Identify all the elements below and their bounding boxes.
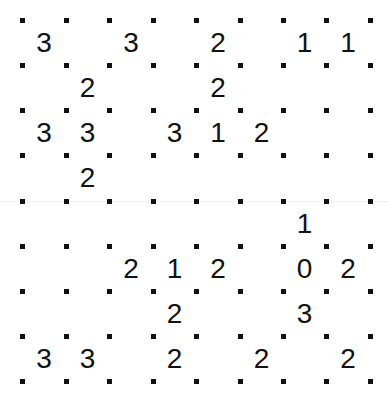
grid-cell[interactable]: 1 bbox=[283, 201, 326, 246]
grid-cell[interactable]: 1 bbox=[153, 246, 196, 291]
grid-cell[interactable] bbox=[22, 201, 66, 246]
grid-cell[interactable] bbox=[240, 246, 283, 291]
grid-cell[interactable] bbox=[326, 155, 370, 201]
grid-cell[interactable]: 2 bbox=[66, 155, 109, 201]
grid-cell[interactable]: 1 bbox=[196, 110, 240, 155]
grid-cell[interactable] bbox=[153, 65, 196, 110]
grid-cell[interactable] bbox=[240, 155, 283, 201]
grid-cell[interactable] bbox=[109, 336, 153, 381]
grid-cell[interactable]: 3 bbox=[22, 336, 66, 381]
grid-cell[interactable] bbox=[22, 246, 66, 291]
grid-cell[interactable] bbox=[283, 65, 326, 110]
grid-cell[interactable] bbox=[283, 155, 326, 201]
grid-cell[interactable] bbox=[22, 65, 66, 110]
grid-cell[interactable] bbox=[109, 110, 153, 155]
grid-cell[interactable] bbox=[109, 155, 153, 201]
grid-cell[interactable]: 2 bbox=[196, 246, 240, 291]
grid-cell[interactable] bbox=[240, 65, 283, 110]
grid-cell[interactable] bbox=[326, 201, 370, 246]
grid-cell[interactable] bbox=[153, 20, 196, 65]
grid-cell[interactable] bbox=[326, 110, 370, 155]
grid-cell[interactable] bbox=[283, 336, 326, 381]
grid-cell[interactable]: 3 bbox=[109, 20, 153, 65]
grid-cell[interactable]: 2 bbox=[326, 246, 370, 291]
grid-cell[interactable] bbox=[196, 291, 240, 336]
grid-cell[interactable] bbox=[66, 291, 109, 336]
grid-cell[interactable] bbox=[22, 291, 66, 336]
grid-cell[interactable]: 2 bbox=[153, 336, 196, 381]
grid-cell[interactable]: 0 bbox=[283, 246, 326, 291]
grid-cell[interactable]: 3 bbox=[22, 110, 66, 155]
grid-cell[interactable]: 3 bbox=[153, 110, 196, 155]
grid-cell[interactable]: 2 bbox=[240, 110, 283, 155]
grid-cell[interactable] bbox=[196, 155, 240, 201]
grid-cell[interactable] bbox=[109, 291, 153, 336]
grid-cell[interactable] bbox=[326, 291, 370, 336]
grid-cell[interactable] bbox=[240, 201, 283, 246]
grid-cell[interactable] bbox=[196, 201, 240, 246]
grid-cell[interactable]: 3 bbox=[66, 110, 109, 155]
grid-cell[interactable] bbox=[196, 336, 240, 381]
grid-cell[interactable]: 2 bbox=[196, 65, 240, 110]
grid-cell[interactable] bbox=[283, 110, 326, 155]
grid-cell[interactable]: 3 bbox=[22, 20, 66, 65]
grid-cell[interactable]: 2 bbox=[240, 336, 283, 381]
grid-cell[interactable] bbox=[240, 20, 283, 65]
grid-cell[interactable] bbox=[326, 65, 370, 110]
grid-cell[interactable] bbox=[66, 201, 109, 246]
grid-cell[interactable] bbox=[66, 246, 109, 291]
grid-cell[interactable]: 1 bbox=[326, 20, 370, 65]
grid-cell[interactable]: 2 bbox=[153, 291, 196, 336]
grid-cell[interactable] bbox=[240, 291, 283, 336]
grid-cell[interactable] bbox=[153, 155, 196, 201]
grid-cell[interactable]: 2 bbox=[326, 336, 370, 381]
grid-cell[interactable] bbox=[109, 65, 153, 110]
grid-cell[interactable]: 2 bbox=[196, 20, 240, 65]
grid-cell[interactable]: 2 bbox=[109, 246, 153, 291]
grid-cell[interactable] bbox=[109, 201, 153, 246]
slitherlink-board: 33211223331221212022333222 bbox=[0, 0, 388, 403]
grid-cell[interactable]: 3 bbox=[66, 336, 109, 381]
grid-cell[interactable]: 2 bbox=[66, 65, 109, 110]
grid-cell[interactable] bbox=[66, 20, 109, 65]
grid-cell[interactable] bbox=[153, 201, 196, 246]
grid-cell[interactable] bbox=[22, 155, 66, 201]
grid-cell[interactable]: 1 bbox=[283, 20, 326, 65]
grid-cell[interactable]: 3 bbox=[283, 291, 326, 336]
